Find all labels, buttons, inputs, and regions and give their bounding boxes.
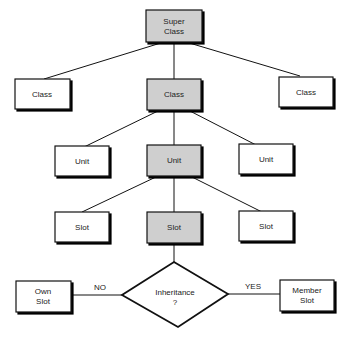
own-slot-label-line2: Slot bbox=[36, 297, 51, 306]
class-hierarchy-diagram: Super Class Class Class Class Unit Unit … bbox=[0, 0, 348, 338]
edge-label-no: NO bbox=[94, 283, 106, 292]
node-slot-center: Slot bbox=[147, 212, 201, 243]
slot-center-label: Slot bbox=[167, 223, 182, 232]
class-center-label: Class bbox=[164, 90, 184, 99]
superclass-label-line1: Super bbox=[163, 17, 185, 26]
unit-left-label: Unit bbox=[75, 157, 90, 166]
node-unit-center: Unit bbox=[147, 145, 201, 176]
node-unit-right: Unit bbox=[239, 144, 293, 174]
node-slot-left: Slot bbox=[55, 212, 109, 242]
node-unit-left: Unit bbox=[55, 146, 109, 176]
node-own-slot: Own Slot bbox=[16, 281, 71, 312]
node-class-right: Class bbox=[279, 77, 333, 107]
node-class-center: Class bbox=[147, 79, 201, 110]
class-left-label: Class bbox=[32, 90, 52, 99]
superclass-label-line2: Class bbox=[164, 27, 184, 36]
node-superclass: Super Class bbox=[146, 10, 202, 42]
node-slot-right: Slot bbox=[239, 211, 293, 241]
decision-label-line2: ? bbox=[173, 298, 178, 307]
node-member-slot: Member Slot bbox=[280, 280, 334, 311]
edge-label-yes: YES bbox=[245, 282, 261, 291]
slot-right-label: Slot bbox=[259, 222, 274, 231]
member-slot-label-line1: Member bbox=[292, 286, 322, 295]
unit-center-label: Unit bbox=[167, 156, 182, 165]
slot-left-label: Slot bbox=[75, 223, 90, 232]
unit-right-label: Unit bbox=[259, 155, 274, 164]
node-class-left: Class bbox=[15, 79, 70, 109]
decision-label-line1: Inheritance bbox=[155, 288, 195, 297]
node-inheritance-decision: Inheritance ? bbox=[122, 262, 228, 327]
own-slot-label-line1: Own bbox=[35, 287, 51, 296]
member-slot-label-line2: Slot bbox=[300, 296, 315, 305]
class-right-label: Class bbox=[296, 88, 316, 97]
